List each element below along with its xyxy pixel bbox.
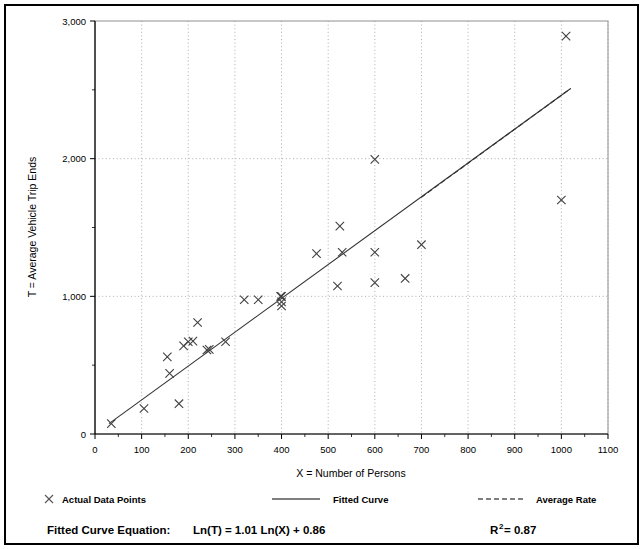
data-point-marker [165, 369, 173, 377]
x-tick-label: 700 [414, 444, 430, 455]
equation-prefix: Fitted Curve Equation: [47, 524, 170, 536]
r-squared-base: R [490, 524, 499, 536]
average-rate-line [421, 88, 570, 197]
x-tick-label: 0 [92, 444, 97, 455]
equation-formula: Ln(T) = 1.01 Ln(X) + 0.86 [193, 524, 325, 536]
legend-label-actual-data-points: Actual Data Points [62, 494, 146, 505]
vertical-gridlines [142, 21, 608, 434]
data-point-marker [417, 241, 425, 249]
scatter-plot-svg: 010020030040050060070080090010001100 01,… [0, 0, 643, 549]
horizontal-gridlines [95, 159, 608, 297]
data-point-marker [557, 196, 565, 204]
data-point-marker [277, 302, 285, 310]
x-tick-label: 1100 [598, 444, 618, 455]
y-axis-title: T = Average Vehicle Trip Ends [26, 157, 38, 298]
r-squared-value: = 0.87 [504, 524, 536, 536]
legend: Actual Data Points Fitted Curve Average … [45, 494, 596, 505]
x-tick-label: 300 [227, 444, 243, 455]
data-point-marker [175, 400, 183, 408]
data-point-marker [371, 278, 379, 286]
x-tick-label: 800 [460, 444, 476, 455]
x-tick-label: 600 [367, 444, 383, 455]
x-axis-title: X = Number of Persons [296, 467, 405, 479]
x-marker-icon [45, 495, 53, 503]
y-tick-label: 2,000 [62, 153, 86, 164]
legend-item-fitted-curve: Fitted Curve [272, 494, 388, 505]
legend-item-actual-data-points: Actual Data Points [45, 494, 146, 505]
chart-page: 010020030040050060070080090010001100 01,… [0, 0, 643, 549]
series-lines [109, 88, 571, 423]
y-tick-label: 1,000 [62, 291, 86, 302]
data-point-marker [193, 318, 201, 326]
data-point-marker [163, 353, 171, 361]
data-point-markers [107, 32, 570, 428]
x-tick-label: 500 [320, 444, 336, 455]
x-tick-label: 400 [274, 444, 290, 455]
legend-label-fitted-curve: Fitted Curve [333, 494, 388, 505]
data-point-marker [401, 274, 409, 282]
x-tick-label: 900 [507, 444, 523, 455]
data-point-marker [140, 404, 148, 412]
data-point-marker [107, 419, 115, 427]
data-point-marker [240, 296, 248, 304]
data-point-marker [336, 222, 344, 230]
data-point-marker [254, 296, 262, 304]
equation-row: Fitted Curve Equation: Ln(T) = 1.01 Ln(X… [47, 522, 536, 536]
legend-item-average-rate: Average Rate [478, 494, 596, 505]
data-point-marker [333, 282, 341, 290]
y-tick-label: 3,000 [62, 16, 86, 27]
legend-label-average-rate: Average Rate [536, 494, 596, 505]
x-tick-label: 100 [134, 444, 150, 455]
x-tick-label: 200 [180, 444, 196, 455]
plot-area-border [95, 21, 608, 434]
data-point-marker [189, 337, 197, 345]
y-axis-tick-labels: 01,0002,0003,000 [62, 16, 86, 440]
chart-canvas: 010020030040050060070080090010001100 01,… [0, 0, 643, 549]
x-tick-label: 1000 [551, 444, 572, 455]
y-tick-label: 0 [81, 429, 86, 440]
data-point-marker [312, 249, 320, 257]
data-point-marker [562, 32, 570, 40]
x-axis-tick-labels: 010020030040050060070080090010001100 [92, 444, 618, 455]
